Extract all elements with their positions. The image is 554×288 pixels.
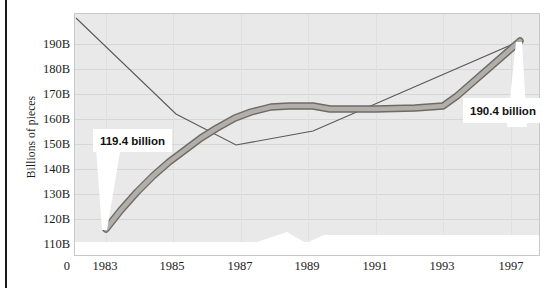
annotation-start-label: 119.4 billion [100, 135, 165, 147]
x-tick-1983: 1983 [93, 259, 118, 274]
x-tick-1991: 1991 [363, 259, 388, 274]
annotation-end-label: 190.4 billion [470, 105, 536, 117]
y-tick-160b: 160B [24, 113, 70, 126]
x-tick-1993: 1993 [430, 259, 455, 274]
annotation-end-value: 190.4 billion [463, 98, 543, 123]
y-tick-130b: 130B [24, 188, 70, 201]
y-tick-110b: 110B [24, 238, 70, 251]
y-tick-140b: 140B [24, 163, 70, 176]
x-axis-tick-labels: 1983 1985 1987 1989 1991 1993 1997 [0, 259, 554, 279]
y-tick-190b: 190B [24, 38, 70, 51]
x-tick-1987: 1987 [228, 259, 253, 274]
y-tick-180b: 180B [24, 63, 70, 76]
x-tick-1985: 1985 [160, 259, 185, 274]
y-tick-120b: 120B [24, 213, 70, 226]
page-margin-rule [5, 0, 7, 288]
y-axis-tick-labels: 190B 180B 170B 160B 150B 140B 130B 120B … [24, 0, 70, 288]
annotation-start-value: 119.4 billion [93, 129, 172, 152]
x-tick-1997: 1997 [499, 259, 524, 274]
chart-figure: Billions of pieces 190B 180B 170B 160B 1… [0, 0, 554, 288]
y-tick-150b: 150B [24, 138, 70, 151]
x-tick-1989: 1989 [295, 259, 320, 274]
y-tick-170b: 170B [24, 88, 70, 101]
